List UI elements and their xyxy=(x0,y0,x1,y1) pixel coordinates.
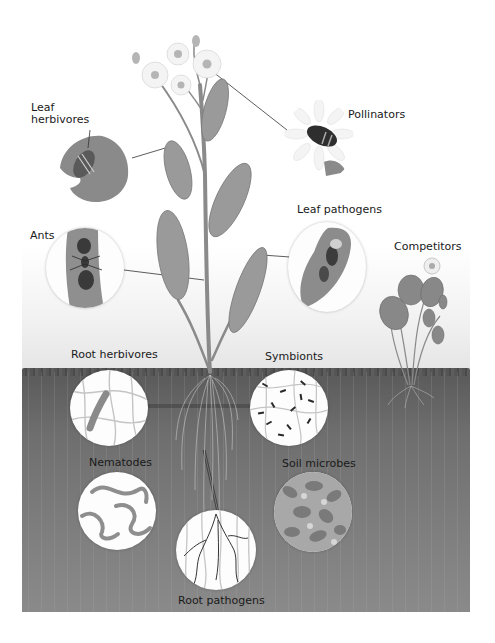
infected-roots-icon xyxy=(176,510,256,590)
label-pollinators: Pollinators xyxy=(348,108,405,121)
inset-soil-microbes xyxy=(274,472,352,552)
inset-leaf-pathogens xyxy=(288,222,366,312)
inset-root-herbivores xyxy=(70,370,148,446)
label-nematodes: Nematodes xyxy=(89,456,152,469)
inset-pollinators xyxy=(284,100,354,182)
label-ants: Ants xyxy=(30,229,55,242)
beetle-on-leaf-icon xyxy=(52,128,132,206)
inset-nematodes xyxy=(78,472,156,550)
ant-on-stem-icon xyxy=(46,228,124,308)
label-competitors: Competitors xyxy=(394,240,462,253)
root-nodules-icon xyxy=(250,370,328,446)
microbe-cluster-icon xyxy=(274,472,352,552)
label-symbionts: Symbionts xyxy=(265,350,323,363)
label-leaf-pathogens: Leaf pathogens xyxy=(297,203,382,216)
flower-heads xyxy=(132,35,221,95)
label-leaf-herbivores-line2: herbivores xyxy=(31,113,89,126)
inset-symbionts xyxy=(250,370,328,446)
root-system xyxy=(176,375,238,520)
bee-on-flower-icon xyxy=(284,100,354,182)
larva-in-roots-icon xyxy=(70,370,148,446)
inset-ants xyxy=(46,228,124,308)
diseased-leaf-icon xyxy=(288,222,366,312)
competitor-plant xyxy=(375,258,447,408)
inset-root-pathogens xyxy=(176,510,256,590)
nematode-worms-icon xyxy=(78,472,156,550)
label-root-herbivores: Root herbivores xyxy=(71,348,158,361)
label-root-pathogens: Root pathogens xyxy=(178,594,265,607)
inset-leaf-herbivores xyxy=(52,128,132,206)
label-soil-microbes: Soil microbes xyxy=(282,457,356,470)
